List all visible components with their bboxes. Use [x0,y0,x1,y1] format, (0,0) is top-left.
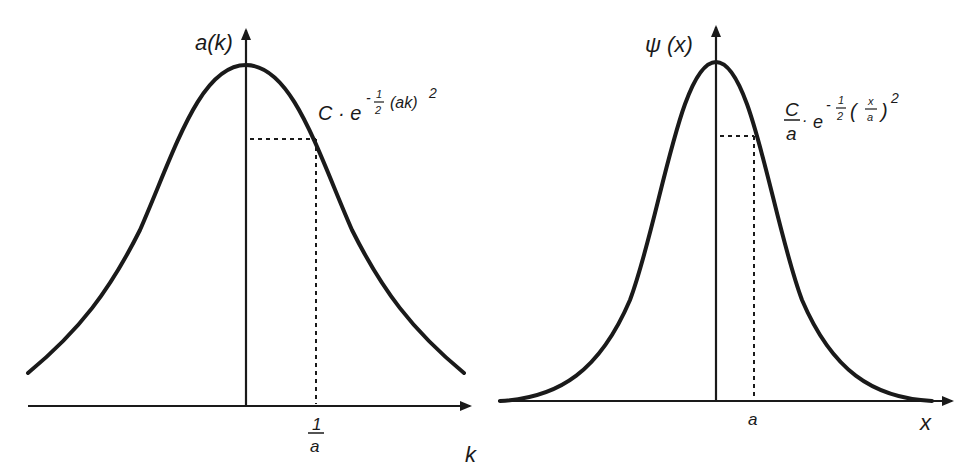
svg-text:-: - [826,97,831,113]
svg-text:2: 2 [836,110,843,122]
left-formula: C · e - 1 2 (ak) 2 [318,85,437,124]
svg-text:(: ( [850,100,859,122]
right-panel: ψ (x) x C a · e - 1 2 ( x a ) 2 a [498,27,952,435]
svg-text:2: 2 [890,90,899,106]
svg-text:a: a [867,111,873,123]
x-axis-label: k [465,442,477,467]
marker-one-over-a: 1 a [308,415,324,456]
svg-text:a: a [786,123,797,144]
svg-text:·: · [802,112,807,129]
right-formula: C a · e - 1 2 ( x a ) 2 [784,90,899,144]
x-axis-label: x [919,410,932,435]
svg-text:1: 1 [838,94,844,106]
svg-text:): ) [879,100,888,122]
svg-text:C: C [785,99,799,120]
svg-text:1: 1 [312,415,321,434]
svg-text:-: - [366,90,371,106]
svg-text:x: x [867,95,874,107]
svg-text:2: 2 [374,104,381,116]
svg-text:a: a [310,437,319,456]
y-axis-label: a(k) [195,30,233,55]
marker-a: a [748,410,757,429]
left-panel: a(k) k C · e - 1 2 (ak) 2 1 a [28,30,477,467]
gaussian-figure: a(k) k C · e - 1 2 (ak) 2 1 a ψ (x) x C [0,0,976,469]
svg-text:e: e [813,112,823,132]
svg-text:1: 1 [376,88,382,100]
svg-text:C · e: C · e [318,102,361,124]
svg-text:2: 2 [428,85,437,101]
y-axis-label: ψ (x) [645,32,693,57]
svg-text:(ak): (ak) [390,94,418,111]
